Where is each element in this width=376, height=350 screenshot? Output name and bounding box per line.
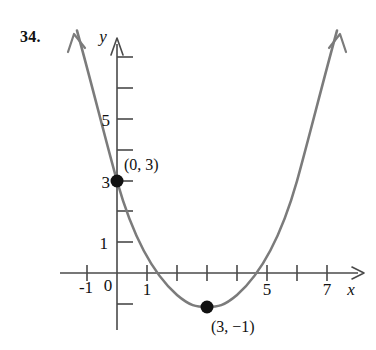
y-axis-label: y — [97, 27, 107, 46]
x-tick-label-0: 0 — [104, 276, 113, 295]
point-label-y-intercept: (0, 3) — [124, 156, 159, 174]
x-tick-label-7: 7 — [323, 280, 332, 299]
point-label-vertex: (3, −1) — [211, 318, 255, 336]
y-tick-label-5: 5 — [102, 111, 111, 130]
parabola-graph: -1 0 1 5 7 1 3 5 y x (0, 3) (3, −1) — [0, 0, 376, 350]
point-marker-y-intercept — [111, 175, 124, 188]
y-tick-label-1: 1 — [100, 234, 109, 253]
y-tick-label-3: 3 — [102, 173, 111, 192]
x-tick-label--1: -1 — [79, 278, 93, 297]
figure-container: 34. — [0, 0, 376, 350]
x-tick-label-1: 1 — [143, 280, 152, 299]
point-marker-vertex — [201, 301, 214, 314]
x-axis-label: x — [346, 280, 355, 299]
x-tick-label-5: 5 — [263, 280, 272, 299]
problem-number: 34. — [20, 28, 41, 46]
